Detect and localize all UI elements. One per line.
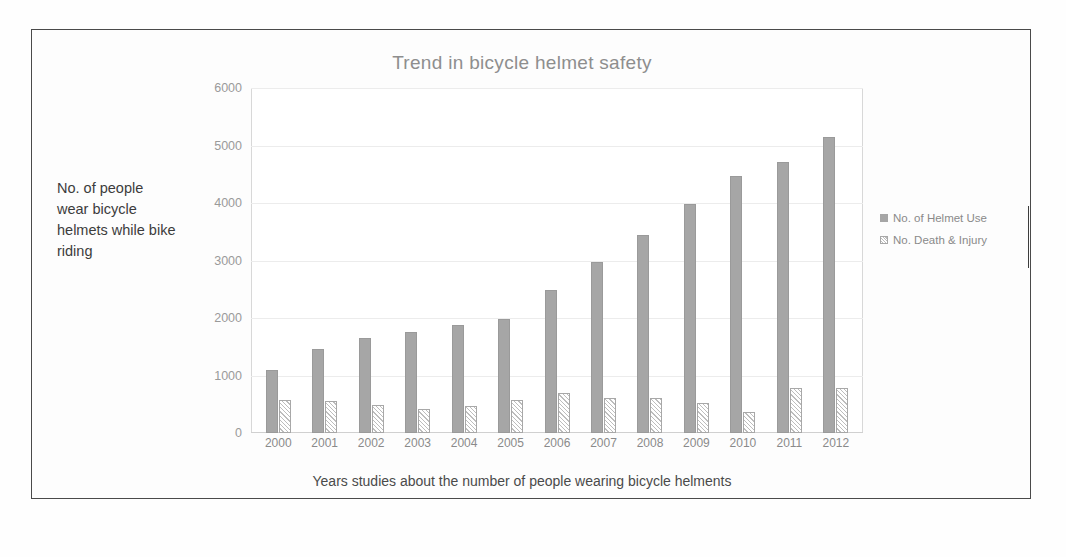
bar-group [673, 88, 719, 433]
x-axis-tick-label: 2002 [348, 436, 394, 450]
bar-death-injury [558, 393, 570, 433]
y-axis-tick-label: 6000 [214, 81, 242, 95]
bar-helmet-use [498, 319, 510, 433]
x-axis-tick-label: 2004 [441, 436, 487, 450]
bar-group [348, 88, 394, 433]
y-axis-tick-label: 4000 [214, 196, 242, 210]
bar-group [580, 88, 626, 433]
bar-death-injury [511, 400, 523, 433]
bar-group [720, 88, 766, 433]
plot-area: 0100020003000400050006000 [251, 88, 863, 433]
bar-death-injury [325, 401, 337, 433]
bar-group [394, 88, 440, 433]
x-axis-tick-label: 2011 [766, 436, 812, 450]
bar-group [441, 88, 487, 433]
x-axis-tick-label: 2012 [813, 436, 859, 450]
bar-death-injury [465, 406, 477, 433]
legend-label-helmet-use: No. of Helmet Use [893, 212, 987, 224]
chart-container: Trend in bicycle helmet safety No. of pe… [32, 30, 1032, 500]
screenshot-page: Trend in bicycle helmet safety No. of pe… [0, 0, 1066, 557]
y-axis-tick-label: 2000 [214, 311, 242, 325]
x-axis-tick-label: 2000 [255, 436, 301, 450]
bar-helmet-use [637, 235, 649, 433]
x-axis-tick-label: 2001 [301, 436, 347, 450]
bar-helmet-use [545, 290, 557, 433]
x-axis-tick-label: 2006 [534, 436, 580, 450]
bar-helmet-use [684, 204, 696, 433]
bar-death-injury [836, 388, 848, 433]
bar-group [766, 88, 812, 433]
bar-helmet-use [591, 262, 603, 433]
x-axis-tick-label: 2010 [720, 436, 766, 450]
bar-helmet-use [312, 349, 324, 433]
bar-helmet-use [777, 162, 789, 433]
bar-death-injury [372, 405, 384, 433]
y-axis-title: No. of people wear bicycle helmets while… [57, 178, 177, 262]
bar-group [813, 88, 859, 433]
x-axis-title: Years studies about the number of people… [172, 473, 872, 489]
bar-death-injury [604, 398, 616, 433]
bar-helmet-use [266, 370, 278, 433]
bar-groups [251, 88, 863, 433]
legend-swatch-icon [880, 214, 888, 222]
y-axis-tick-label: 3000 [214, 254, 242, 268]
bar-helmet-use [359, 338, 371, 433]
legend-divider [1028, 206, 1029, 268]
x-axis-tick-labels: 2000200120022003200420052006200720082009… [251, 436, 863, 450]
x-axis-tick-label: 2007 [580, 436, 626, 450]
bar-helmet-use [452, 325, 464, 433]
bar-group [255, 88, 301, 433]
bar-death-injury [650, 398, 662, 433]
bar-helmet-use [405, 332, 417, 433]
bar-group [627, 88, 673, 433]
bar-death-injury [697, 403, 709, 433]
bar-death-injury [418, 409, 430, 433]
x-axis-tick-label: 2009 [673, 436, 719, 450]
x-axis-tick-label: 2005 [487, 436, 533, 450]
bar-group [487, 88, 533, 433]
x-axis-tick-label: 2003 [394, 436, 440, 450]
document-frame: Trend in bicycle helmet safety No. of pe… [31, 29, 1031, 499]
bar-helmet-use [823, 137, 835, 433]
chart-title: Trend in bicycle helmet safety [212, 52, 832, 74]
x-axis-tick-label: 2008 [627, 436, 673, 450]
bar-death-injury [279, 400, 291, 433]
legend-label-death-injury: No. Death & Injury [893, 234, 987, 246]
legend-swatch-icon [880, 236, 888, 244]
bar-death-injury [790, 388, 802, 433]
y-axis-tick-label: 0 [235, 426, 242, 440]
bar-group [301, 88, 347, 433]
bar-death-injury [743, 412, 755, 433]
bar-helmet-use [730, 176, 742, 433]
bar-group [534, 88, 580, 433]
y-axis-tick-label: 5000 [214, 139, 242, 153]
legend-item-helmet-use: No. of Helmet Use [880, 212, 1030, 224]
chart-legend: No. of Helmet Use No. Death & Injury [880, 212, 1030, 256]
legend-item-death-injury: No. Death & Injury [880, 234, 1030, 246]
y-axis-tick-label: 1000 [214, 369, 242, 383]
